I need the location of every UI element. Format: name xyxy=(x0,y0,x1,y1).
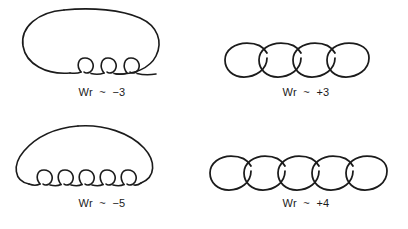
figure-solenoid-plus-3 xyxy=(204,0,408,90)
coil-baseline-mid-4 xyxy=(113,185,124,186)
outer-loop-left-arc xyxy=(23,10,70,73)
coil-baseline-left xyxy=(29,184,40,185)
coil-5 xyxy=(121,170,136,185)
figure-plectoneme-minus-3 xyxy=(0,0,204,90)
panel-top-right: Wr ~ +3 xyxy=(204,0,408,114)
coil-2 xyxy=(58,170,73,185)
coil-baseline-mid-1 xyxy=(91,73,104,74)
solenoid-ring-4 xyxy=(327,43,369,77)
dome-top-right-arc xyxy=(78,126,153,183)
coil-3 xyxy=(79,170,94,185)
coil-baseline-right xyxy=(134,183,141,185)
coil-1 xyxy=(78,58,93,73)
coil-2 xyxy=(101,58,116,73)
coil-baseline-left xyxy=(70,72,81,73)
dome-left-arc xyxy=(16,126,78,184)
solenoid-ring-3 xyxy=(293,43,335,77)
coil-4 xyxy=(100,170,115,185)
caption-top-left: Wr ~ −3 xyxy=(0,86,204,98)
coil-baseline-mid-2 xyxy=(114,73,127,74)
caption-bottom-left: Wr ~ −5 xyxy=(0,197,204,209)
writhe-diagram: Wr ~ −3 Wr ~ +3 xyxy=(0,0,408,229)
coil-baseline-mid-2 xyxy=(71,185,82,186)
coil-3 xyxy=(124,58,139,73)
coil-baseline-right xyxy=(137,74,156,75)
caption-top-right: Wr ~ +3 xyxy=(204,86,408,98)
panel-bottom-left: Wr ~ −5 xyxy=(0,115,204,229)
figure-solenoid-plus-4 xyxy=(204,115,408,205)
coil-baseline-mid-1 xyxy=(50,185,61,186)
coil-baseline-mid-3 xyxy=(92,185,103,186)
solenoid-ring-1 xyxy=(225,43,267,77)
coil-1 xyxy=(37,170,52,185)
figure-plectoneme-minus-5 xyxy=(0,115,204,205)
caption-bottom-right: Wr ~ +4 xyxy=(204,197,408,209)
panel-bottom-right: Wr ~ +4 xyxy=(204,115,408,229)
panel-top-left: Wr ~ −3 xyxy=(0,0,204,114)
solenoid-ring-2 xyxy=(259,43,301,77)
